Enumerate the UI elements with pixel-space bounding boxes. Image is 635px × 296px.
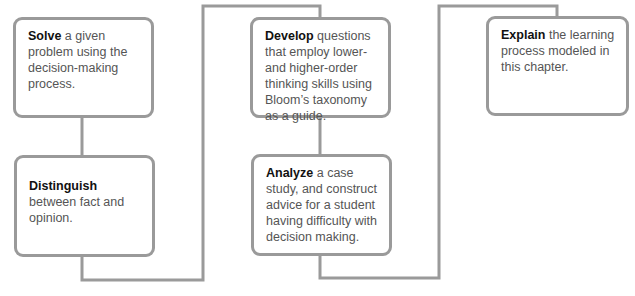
- objective-verb: Develop: [265, 29, 314, 43]
- objective-verb: Distinguish: [29, 179, 97, 193]
- objective-box-develop: Develop questions that employ lower- and…: [250, 17, 391, 118]
- objective-box-solve: Solve a given problem using the decision…: [13, 17, 154, 118]
- objective-verb: Analyze: [266, 166, 313, 180]
- objective-box-analyze: Analyze a case study, and construct advi…: [251, 154, 392, 256]
- objective-box-explain: Explain the learning process modeled in …: [486, 16, 629, 116]
- objective-verb: Solve: [28, 29, 61, 43]
- objective-box-distinguish: Distinguish between fact and opinion.: [14, 155, 155, 257]
- objective-text: questions that employ lower- and higher-…: [265, 29, 372, 123]
- objective-text: between fact and opinion.: [29, 195, 124, 225]
- objective-verb: Explain: [501, 28, 545, 42]
